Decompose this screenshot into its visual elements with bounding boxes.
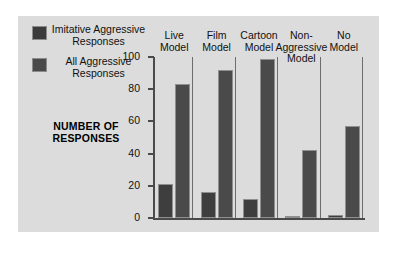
bar — [175, 84, 190, 218]
plot-area: 020406080100 — [153, 57, 365, 218]
y-tick-label-100: 100 — [122, 50, 140, 62]
bar — [243, 199, 258, 218]
y-tick-100: 100 — [148, 56, 154, 58]
legend-swatch-imitative-icon — [32, 26, 47, 40]
group-divider — [235, 57, 236, 218]
y-tick-0: 0 — [148, 217, 154, 219]
group-divider — [277, 57, 278, 218]
y-tick-label-80: 80 — [128, 82, 140, 94]
bar — [158, 184, 173, 218]
group-label-no-model: NoModel — [316, 30, 372, 53]
bar — [260, 59, 275, 218]
group-divider — [192, 57, 193, 218]
legend-swatch-all-icon — [32, 58, 47, 72]
bar — [285, 216, 300, 218]
legend-label-imitative: Imitative Aggressive Responses — [47, 24, 150, 47]
y-tick-label-60: 60 — [128, 114, 140, 126]
x-axis-line — [153, 218, 365, 220]
legend-item-imitative: Imitative Aggressive Responses — [32, 24, 150, 47]
bar — [302, 150, 317, 218]
y-tick-label-40: 40 — [128, 147, 140, 159]
group-divider — [320, 57, 321, 218]
y-axis-title: NUMBER OF RESPONSES — [30, 120, 142, 144]
chart-figure: Imitative Aggressive Responses All Aggre… — [18, 16, 379, 232]
y-tick-label-20: 20 — [128, 179, 140, 191]
bar — [201, 192, 216, 218]
bar — [328, 215, 343, 218]
y-tick-60: 60 — [148, 120, 154, 122]
bar — [218, 70, 233, 218]
y-tick-40: 40 — [148, 153, 154, 155]
bar — [345, 126, 360, 218]
y-tick-80: 80 — [148, 88, 154, 90]
y-tick-20: 20 — [148, 185, 154, 187]
y-tick-label-0: 0 — [134, 211, 140, 223]
group-divider — [362, 57, 363, 218]
y-axis-line — [153, 57, 155, 218]
